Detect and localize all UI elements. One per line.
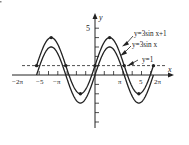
svg-text:y=3sin x: y=3sin x xyxy=(132,41,157,49)
key-point xyxy=(35,64,38,67)
x-tick-label-pi: π xyxy=(118,78,122,86)
svg-text:y=1: y=1 xyxy=(142,56,154,64)
key-point xyxy=(79,92,82,95)
x-tick-label-5: 5 xyxy=(139,78,143,86)
sine-graph-chart: x y 5 −2π −5 −π π xyxy=(0,0,189,145)
x-tick-labels: −2π −5 −π π 5 2π xyxy=(12,78,162,86)
key-point xyxy=(137,92,140,95)
x-tick-label-neg-5: −5 xyxy=(36,78,44,86)
key-point xyxy=(93,64,96,67)
corner-mark xyxy=(0,1,2,3)
x-axis-label: x xyxy=(167,65,172,74)
x-tick-label-neg-pi: −π xyxy=(53,78,61,86)
key-point xyxy=(123,64,126,67)
y-axis: y 5 xyxy=(86,13,103,128)
x-tick-label-2pi: 2π xyxy=(154,78,162,86)
annotation-y-equals-1: y=1 xyxy=(127,56,154,66)
y-tick-label-5: 5 xyxy=(86,24,90,33)
svg-text:y=3sin x+1: y=3sin x+1 xyxy=(134,30,167,38)
x-tick-label-neg-2pi: −2π xyxy=(12,78,23,86)
y-axis-label: y xyxy=(98,13,103,22)
key-point xyxy=(152,64,155,67)
key-point xyxy=(108,36,111,39)
key-point xyxy=(49,36,52,39)
key-point xyxy=(64,64,67,67)
